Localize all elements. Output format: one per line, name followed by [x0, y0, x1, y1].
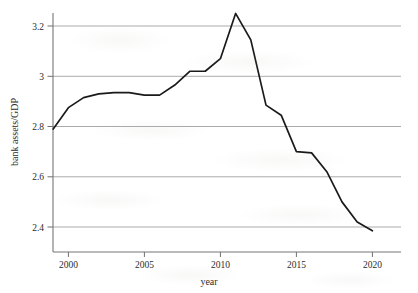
x-axis-title: year [200, 276, 218, 287]
x-tick-label-2020: 2020 [363, 260, 382, 270]
y-tick-label-3_2: 3.2 [32, 22, 44, 32]
chart-background [0, 0, 418, 293]
y-tick-label-2_8: 2.8 [32, 122, 44, 132]
y-axis-title: bank assets/GDP [9, 98, 20, 166]
line-chart-figure: 3.2 3 2.8 2.6 2.4 2000 2005 2010 2015 20… [0, 0, 418, 293]
y-tick-label-3_0: 3 [39, 72, 44, 82]
x-tick-label-2015: 2015 [287, 260, 306, 270]
chart-canvas: 3.2 3 2.8 2.6 2.4 2000 2005 2010 2015 20… [0, 0, 418, 293]
y-tick-label-2_4: 2.4 [32, 223, 44, 233]
y-tick-label-2_6: 2.6 [32, 172, 44, 182]
x-tick-label-2010: 2010 [211, 260, 230, 270]
x-tick-label-2000: 2000 [59, 260, 78, 270]
x-tick-label-2005: 2005 [135, 260, 154, 270]
